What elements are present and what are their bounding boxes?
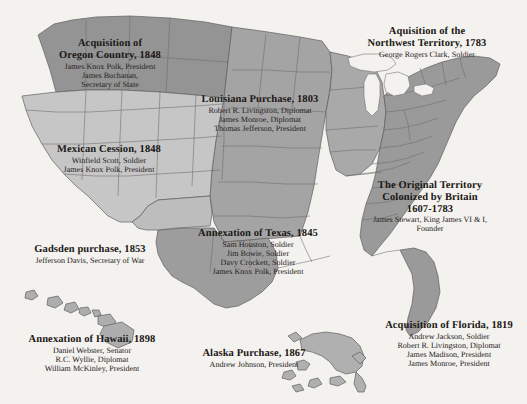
label-title: 1607-1783: [340, 204, 520, 216]
label-title: Acquisition of Florida, 1819: [372, 320, 526, 332]
label-name: Thomas Jefferson, President: [170, 124, 350, 133]
label-name: Jim Bowie, Soldier: [172, 249, 344, 258]
label-title: Mexican Cession, 1848: [26, 144, 192, 156]
label-title: Northwest Territory, 1783: [332, 38, 522, 50]
label-alaska-purchase: Alaska Purchase, 1867 Andrew Johnson, Pr…: [166, 348, 342, 369]
label-name: Davy Crockett, Soldier: [172, 258, 344, 267]
label-title: Annexation of Hawaii, 1898: [0, 334, 184, 346]
label-name: Jefferson Davis, Secretary of War: [2, 256, 178, 265]
label-name: Secretary of State: [24, 80, 196, 89]
label-name: Robert R. Livingston, Diplomat: [170, 106, 350, 115]
label-name: Sam Houston, Soldier: [172, 240, 344, 249]
label-title: The Original Territory: [340, 180, 520, 192]
label-title: Oregon Country, 1848: [24, 50, 196, 62]
label-name: James Stewart, King James VI & I,: [340, 215, 520, 224]
label-name: William McKinley, President: [0, 364, 184, 373]
label-title: Louisiana Purchase, 1803: [170, 94, 350, 106]
label-name: Winfield Scott, Soldier: [26, 156, 192, 165]
label-name: James Knox Polk, President: [26, 165, 192, 174]
label-name: George Rogers Clark, Soldier: [332, 50, 522, 59]
label-title: Aquisition of the: [332, 26, 522, 38]
label-texas-annexation: Annexation of Texas, 1845 Sam Houston, S…: [172, 228, 344, 276]
map-canvas: .rg{stroke:#5f5f5f;stroke-width:0.7;} .b…: [0, 0, 527, 404]
label-florida-acquisition: Acquisition of Florida, 1819 Andrew Jack…: [372, 320, 526, 368]
label-hawaii-annexation: Annexation of Hawaii, 1898 Daniel Webste…: [0, 334, 184, 373]
label-title: Acquisition of: [24, 38, 196, 50]
label-name: Robert R. Livingston, Diplomat: [372, 341, 526, 350]
label-gadsden-purchase: Gadsden purchase, 1853 Jefferson Davis, …: [2, 244, 178, 265]
label-name: James Buchanan,: [24, 71, 196, 80]
label-northwest-territory: Aquisition of the Northwest Territory, 1…: [332, 26, 522, 59]
label-name: Andrew Johnson, President: [166, 360, 342, 369]
label-louisiana-purchase: Louisiana Purchase, 1803 Robert R. Livin…: [170, 94, 350, 133]
label-original-territory: The Original Territory Colonized by Brit…: [340, 180, 520, 233]
label-name: James Knox Polk, President: [24, 62, 196, 71]
label-name: James Knox Polk, President: [172, 267, 344, 276]
lake-michigan: [364, 74, 380, 116]
label-oregon-country: Acquisition of Oregon Country, 1848 Jame…: [24, 38, 196, 89]
label-title: Alaska Purchase, 1867: [166, 348, 342, 360]
label-title: Colonized by Britain: [340, 192, 520, 204]
label-name: Founder: [340, 224, 520, 233]
label-title: Annexation of Texas, 1845: [172, 228, 344, 240]
label-name: Daniel Webster, Senator: [0, 346, 184, 355]
label-mexican-cession: Mexican Cession, 1848 Winfield Scott, So…: [26, 144, 192, 174]
region-louisiana-purchase: [210, 27, 332, 242]
label-name: Andrew Jackson, Soldier: [372, 332, 526, 341]
label-name: James Monroe, Diplomat: [170, 115, 350, 124]
label-name: James Monroe, President: [372, 359, 526, 368]
label-title: Gadsden purchase, 1853: [2, 244, 178, 256]
label-name: R.C. Wyllie, Diplomat: [0, 355, 184, 364]
label-name: James Madison, President: [372, 350, 526, 359]
